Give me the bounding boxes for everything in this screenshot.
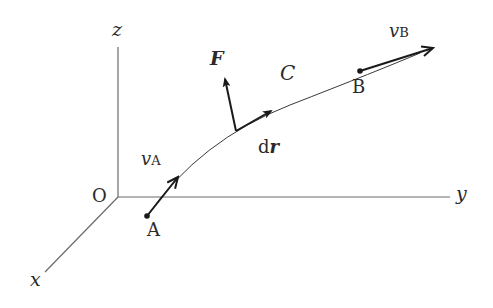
displacement-label: dr bbox=[258, 138, 279, 156]
x-axis-label: x bbox=[30, 270, 41, 289]
displacement-prefix: d bbox=[258, 136, 270, 157]
velocity-b-label: vB bbox=[389, 22, 409, 40]
velocity-a-label: vA bbox=[141, 150, 161, 168]
velocity-b-vector bbox=[360, 48, 433, 71]
y-axis-label: y bbox=[456, 184, 467, 203]
velocity-a-sub: A bbox=[151, 153, 160, 168]
force-label: F bbox=[210, 49, 224, 68]
point-b-label: B bbox=[352, 78, 365, 96]
force-vector bbox=[225, 79, 236, 131]
displacement-var: r bbox=[270, 136, 279, 157]
x-axis bbox=[45, 197, 118, 272]
curve-c-label: C bbox=[280, 63, 295, 83]
velocity-b-base: v bbox=[389, 20, 399, 41]
diagram-svg bbox=[0, 0, 493, 308]
velocity-b-sub: B bbox=[399, 25, 409, 40]
z-axis-label: z bbox=[112, 20, 122, 39]
origin-label: O bbox=[92, 187, 107, 205]
velocity-a-base: v bbox=[141, 148, 151, 169]
point-a-label: A bbox=[147, 221, 160, 239]
diagram-canvas: z y x O A B C F dr vA vB bbox=[0, 0, 493, 308]
displacement-vector bbox=[236, 111, 271, 131]
axes bbox=[45, 47, 450, 272]
